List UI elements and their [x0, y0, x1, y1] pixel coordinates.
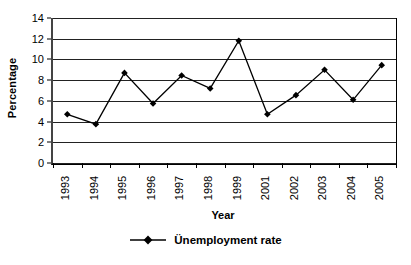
y-axis-tick-label: 4: [38, 116, 44, 128]
y-axis-tick-label: 14: [32, 12, 44, 24]
x-axis-tick-label: 2005: [373, 170, 387, 208]
x-axis-tick-mark: [139, 163, 140, 168]
data-point-marker: [93, 121, 100, 128]
line-with-diamond-marker-icon: [129, 234, 167, 246]
data-point-marker: [207, 85, 214, 92]
y-axis-tick-label: 12: [32, 33, 44, 45]
series-line: [67, 41, 381, 124]
x-axis-tick-mark: [82, 163, 83, 168]
chart-legend: Ünemployment rate: [0, 234, 411, 246]
x-axis-tick-mark: [310, 163, 311, 168]
x-axis-tick-mark: [282, 163, 283, 168]
x-axis-tick-mark: [339, 163, 340, 168]
series-plot: [53, 18, 396, 163]
y-axis-tick-label: 10: [32, 53, 44, 65]
x-axis-tick-label: 1999: [230, 170, 244, 208]
x-axis-title: Year: [51, 209, 395, 221]
x-axis-tick-label: 1997: [173, 170, 187, 208]
data-point-marker: [64, 111, 71, 118]
y-axis-tick-label: 2: [38, 136, 44, 148]
unemployment-rate-line-chart: Percentage 02468101214 19931994199519961…: [0, 0, 411, 265]
x-axis-tick-label: 1993: [58, 170, 72, 208]
legend-series-label: Ünemployment rate: [174, 234, 281, 246]
y-axis-title-label: Percentage: [6, 57, 18, 117]
x-axis-tick-mark: [53, 163, 54, 168]
y-axis-tick-label: 8: [38, 74, 44, 86]
x-axis-tick-mark: [225, 163, 226, 168]
x-axis-tick-mark: [196, 163, 197, 168]
x-axis-tick-label: 2004: [344, 170, 358, 208]
x-axis-tick-mark: [396, 163, 397, 168]
x-axis-tick-mark: [367, 163, 368, 168]
x-axis-tick-label: 1998: [201, 170, 215, 208]
x-axis-tick-label: 2002: [287, 170, 301, 208]
x-axis-tick-mark: [253, 163, 254, 168]
y-axis-tick-label: 6: [38, 95, 44, 107]
x-axis-tick-label: 1994: [87, 170, 101, 208]
y-axis-title: Percentage: [0, 0, 24, 175]
x-axis-tick-mark: [167, 163, 168, 168]
x-axis-tick-label: 1995: [115, 170, 129, 208]
y-axis-tick-labels: 02468101214: [22, 11, 47, 165]
plot-area: [51, 18, 397, 165]
x-axis-tick-label: 1996: [144, 170, 158, 208]
x-axis-tick-label: 2001: [258, 170, 272, 208]
x-axis-tick-mark: [110, 163, 111, 168]
x-axis-tick-label: 2003: [316, 170, 330, 208]
data-point-marker: [235, 37, 242, 44]
y-axis-tick-label: 0: [38, 157, 44, 169]
x-axis-tick-labels: 1993199419951996199719981999200120022003…: [51, 170, 395, 208]
